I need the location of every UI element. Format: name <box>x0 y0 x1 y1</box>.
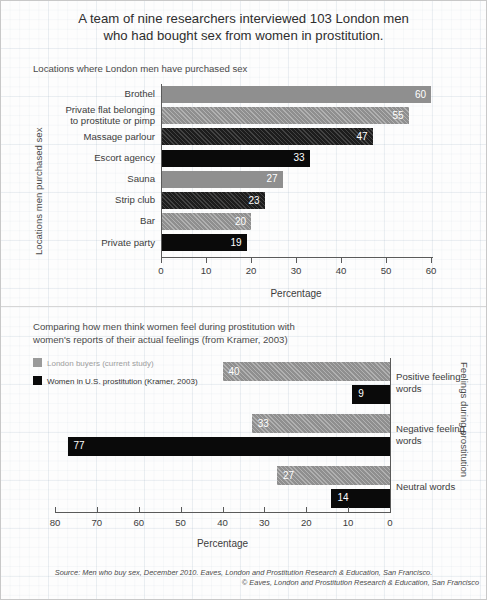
section-divider <box>0 306 487 307</box>
chart-1-category-label: Bar <box>45 215 155 227</box>
chart-1-bar-value: 20 <box>227 217 246 227</box>
chart-2-tick <box>390 507 391 512</box>
chart-1-tick-label: 40 <box>326 265 356 276</box>
chart-2-bar-value: 77 <box>74 441 85 451</box>
legend-label-us-prostitution: Women in U.S. prostitution (Kramer, 2003… <box>47 377 198 386</box>
chart-1-bar <box>161 128 373 145</box>
chart-1-tick-label: 50 <box>371 265 401 276</box>
chart-2-tick-label: 20 <box>291 517 321 528</box>
chart-2-tick <box>181 507 182 512</box>
chart-2-bar <box>252 414 390 433</box>
chart-2-tick-label: 60 <box>124 517 154 528</box>
chart-1-bar-value: 47 <box>349 132 368 142</box>
chart-1-category-label: Massage parlour <box>45 131 155 143</box>
chart-1-tick <box>296 258 297 263</box>
chart-2-bar <box>68 437 390 456</box>
chart-1-tick <box>386 258 387 263</box>
chart-2-tick-label: 0 <box>375 517 405 528</box>
legend-item-us-prostitution: Women in U.S. prostitution (Kramer, 2003… <box>33 376 198 386</box>
chart-1-tick-label: 0 <box>146 265 176 276</box>
chart-2-bar-value: 40 <box>229 367 240 377</box>
chart-1-category-label: Sauna <box>45 173 155 185</box>
legend-label-london-buyers: London buyers (current study) <box>47 359 154 368</box>
page-title-line-1: A team of nine researchers interviewed 1… <box>0 10 487 27</box>
infographic-page: A team of nine researchers interviewed 1… <box>0 0 487 600</box>
page-title-line-2: who had bought sex from women in prostit… <box>0 27 487 44</box>
chart-1-category-label: Private flat belongingto prostitute or p… <box>45 104 155 127</box>
chart-2-title: Comparing how men think women feel durin… <box>33 320 295 346</box>
chart-2-tick <box>223 507 224 512</box>
chart-2-x-axis <box>55 512 391 513</box>
chart-1-bar <box>161 107 409 124</box>
chart-1-bar-value: 27 <box>259 174 278 184</box>
legend-swatch-grey-icon <box>33 358 42 367</box>
legend-item-london-buyers: London buyers (current study) <box>33 358 154 368</box>
chart-1-bar-value: 19 <box>223 238 242 248</box>
chart-1-y-axis-title: Locations men purchased sex <box>33 128 44 255</box>
chart-2-tick-label: 30 <box>249 517 279 528</box>
chart-1-bar <box>161 86 431 103</box>
chart-2-tick <box>97 507 98 512</box>
chart-2-tick <box>55 507 56 512</box>
source-line-1: Source: Men who buy sex, December 2010. … <box>0 568 487 578</box>
chart-2-y-axis <box>390 358 391 513</box>
chart-1-tick-label: 10 <box>191 265 221 276</box>
chart-1-tick <box>431 258 432 263</box>
chart-1-category-label: Brothel <box>45 88 155 100</box>
chart-2-x-axis-title: Percentage <box>55 538 390 549</box>
chart-1-bar-value: 33 <box>286 153 305 163</box>
chart-1-category-label: Private party <box>45 237 155 249</box>
chart-2-title-line-2: women's reports of their actual feelings… <box>33 333 295 346</box>
chart-1-y-axis <box>161 84 162 257</box>
chart-2-tick <box>139 507 140 512</box>
chart-2-tick <box>306 507 307 512</box>
chart-1-tick <box>341 258 342 263</box>
chart-2-tick-label: 50 <box>166 517 196 528</box>
chart-1-bar-value: 55 <box>385 111 404 121</box>
chart-2-tick <box>264 507 265 512</box>
chart-2-bar-value: 14 <box>337 493 348 503</box>
chart-2-tick-label: 10 <box>333 517 363 528</box>
chart-1-tick-label: 30 <box>281 265 311 276</box>
chart-2-bar <box>223 362 391 381</box>
chart-1-bar-value: 23 <box>241 196 260 206</box>
chart-2-category-label: Neutral words <box>396 481 468 493</box>
source-footer: Source: Men who buy sex, December 2010. … <box>0 568 487 588</box>
chart-2-tick-label: 40 <box>208 517 238 528</box>
chart-1-x-axis-title: Percentage <box>161 288 431 299</box>
chart-1-bar-value: 60 <box>407 90 426 100</box>
chart-1-tick <box>161 258 162 263</box>
chart-1-tick <box>251 258 252 263</box>
chart-1-tick-label: 60 <box>416 265 446 276</box>
chart-1-tick-label: 20 <box>236 265 266 276</box>
page-title: A team of nine researchers interviewed 1… <box>0 10 487 44</box>
chart-2-bar-value: 33 <box>258 419 269 429</box>
chart-2-tick-label: 70 <box>82 517 112 528</box>
chart-1-category-label: Strip club <box>45 194 155 206</box>
source-line-2: © Eaves, London and Prostitution Researc… <box>0 578 487 588</box>
chart-2-tick-label: 80 <box>40 517 70 528</box>
chart-2-bar-value: 27 <box>283 471 294 481</box>
chart-2-category-label: Negative feelingwords <box>396 423 468 446</box>
legend-swatch-black-icon <box>33 376 42 385</box>
chart-1-category-label: Escort agency <box>45 152 155 164</box>
chart-2-tick <box>348 507 349 512</box>
chart-1-title: Locations where London men have purchase… <box>33 62 247 75</box>
chart-1-x-axis <box>161 257 433 258</box>
chart-2-category-label: Positive feelingwords <box>396 371 468 394</box>
chart-2-bar-value: 9 <box>358 389 364 399</box>
chart-1-tick <box>206 258 207 263</box>
chart-2-title-line-1: Comparing how men think women feel durin… <box>33 320 295 333</box>
